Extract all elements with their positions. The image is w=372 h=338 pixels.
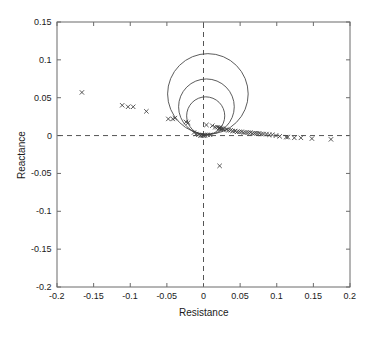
y-axis-title: Reactance	[16, 131, 27, 179]
data-point-marker	[244, 130, 248, 134]
data-point-marker	[255, 131, 259, 135]
middle-fit-circle	[179, 79, 235, 135]
data-point-marker	[217, 164, 221, 168]
y-tick-label: -0.15	[31, 244, 52, 254]
data-point-marker	[126, 105, 130, 109]
y-tick-label: 0	[47, 131, 52, 141]
x-tick-label: -0.05	[156, 291, 177, 301]
x-tick-label: 0	[201, 291, 206, 301]
x-tick-label: 0.2	[344, 291, 357, 301]
data-point-marker	[80, 90, 84, 94]
data-point-marker	[204, 123, 208, 127]
y-tick-label: 0.1	[39, 55, 52, 65]
data-point-marker	[246, 130, 250, 134]
data-point-markers	[80, 90, 333, 168]
y-tick-label: 0.15	[34, 17, 52, 27]
plot-canvas	[0, 0, 372, 338]
nyquist-impedance-figure: Resistance Reactance -0.2-0.15-0.1-0.050…	[0, 0, 372, 338]
data-point-marker	[299, 136, 303, 140]
data-point-marker	[277, 134, 281, 138]
x-tick-label: -0.1	[122, 291, 138, 301]
x-tick-label: 0.1	[270, 291, 283, 301]
reference-lines	[58, 23, 349, 286]
data-point-marker	[310, 136, 314, 140]
y-tick-label: 0.05	[34, 93, 52, 103]
fit-circles	[168, 54, 249, 135]
y-tick-label: -0.2	[36, 282, 52, 292]
outer-fit-circle	[168, 54, 249, 135]
x-tick-label: 0.15	[304, 291, 322, 301]
data-point-marker	[131, 105, 135, 109]
data-point-marker	[120, 103, 124, 107]
data-point-marker	[237, 130, 241, 134]
data-point-marker	[270, 133, 274, 137]
data-point-marker	[166, 117, 170, 121]
data-point-marker	[253, 131, 257, 135]
x-tick-label: 0.05	[231, 291, 249, 301]
x-tick-label: -0.15	[83, 291, 104, 301]
data-point-marker	[329, 137, 333, 141]
y-tick-label: -0.05	[31, 168, 52, 178]
data-point-marker	[144, 109, 148, 113]
impedance-data	[80, 90, 333, 168]
y-tick-label: -0.1	[36, 206, 52, 216]
x-axis-title: Resistance	[179, 307, 228, 318]
x-tick-label: -0.2	[49, 291, 65, 301]
data-point-marker	[292, 136, 296, 140]
